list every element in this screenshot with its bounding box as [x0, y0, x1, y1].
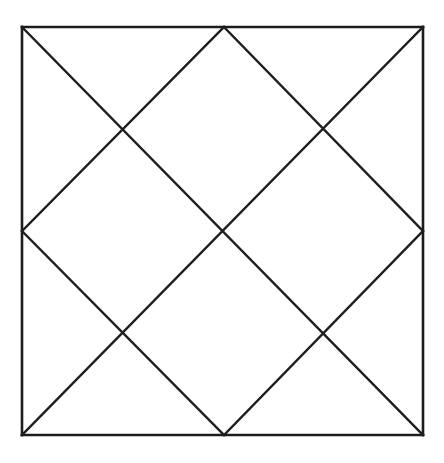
- geometric-figure: [0, 0, 444, 463]
- figure-stage: [0, 0, 444, 463]
